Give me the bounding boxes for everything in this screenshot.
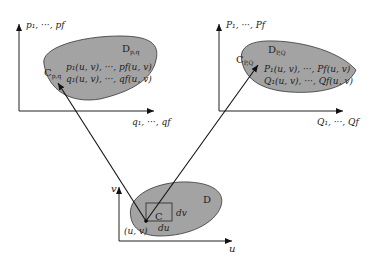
right-x-axis-label: Q₁, ···, Qf (317, 117, 360, 127)
point-label: (u, v) (124, 226, 148, 236)
left-formula-line2: q₁(u, v), ···, qf(u, v) (66, 74, 152, 84)
left-x-axis-label: q₁, ···, qf (132, 117, 172, 127)
parameter-u-axis-label: u (229, 243, 235, 254)
left-formula-line1: p₁(u, v), ···, pf(u, v) (66, 62, 152, 72)
left-space: p₁, ···, pf q₁, ···, qf Dp,q Cp,q p₁(u, … (19, 20, 172, 127)
right-formula-line1: P₁(u, v), ···, Pf(u, v) (263, 64, 351, 74)
parameter-space: v u D C dv du (u, v) (111, 182, 235, 254)
cell-label: C (155, 211, 163, 222)
dv-label: dv (176, 208, 187, 218)
parameter-v-axis-label: v (111, 183, 117, 194)
right-y-axis-label: P₁, ···, Pf (225, 20, 267, 30)
mapping-diagram: p₁, ···, pf q₁, ···, qf Dp,q Cp,q p₁(u, … (0, 0, 373, 263)
left-y-axis-label: p₁, ···, pf (26, 20, 66, 30)
parameter-region-label: D (203, 194, 211, 205)
du-label: du (158, 223, 170, 233)
right-space: P₁, ···, Pf Q₁, ···, Qf DP,Q CP,Q P₁(u, … (219, 20, 360, 127)
right-formula-line2: Q₁(u, v), ···, Qf(u, v) (264, 76, 353, 86)
map-arrow-to-left-space (58, 83, 146, 221)
